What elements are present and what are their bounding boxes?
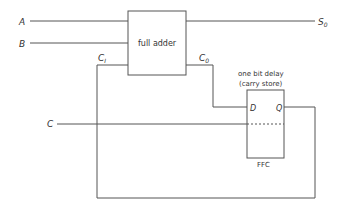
input-b-label: B bbox=[19, 39, 25, 49]
full-adder-serial-diagram: A B C full adder CI C0 S0 one bit delay … bbox=[0, 0, 347, 212]
carry-out-label: C0 bbox=[199, 53, 209, 64]
sum-output-label: S0 bbox=[318, 17, 328, 28]
flip-flop-q-label: Q bbox=[276, 104, 282, 113]
clock-label: C bbox=[47, 119, 54, 129]
flip-flop-caption-line1: one bit delay bbox=[238, 70, 284, 78]
carry-in-label: CI bbox=[98, 53, 106, 64]
flip-flop-name-label: FFC bbox=[257, 161, 270, 169]
flip-flop-d-label: D bbox=[250, 104, 256, 113]
full-adder-label: full adder bbox=[138, 39, 177, 48]
flip-flop-caption-line2: (carry store) bbox=[239, 80, 283, 88]
input-a-label: A bbox=[18, 17, 25, 27]
